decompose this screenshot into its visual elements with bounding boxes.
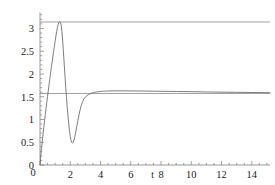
- y-tick-label: 2.5: [21, 46, 34, 57]
- plot-figure: 02468101214 00.511.522.53 t: [0, 0, 275, 185]
- x-tick-label: 10: [186, 169, 197, 180]
- x-axis-title: t: [151, 170, 154, 180]
- plot-canvas: 02468101214 00.511.522.53 t: [0, 0, 275, 185]
- y-tick-label: 0: [29, 160, 34, 171]
- x-tick-label: 8: [158, 169, 163, 180]
- x-tick-label: 4: [98, 169, 104, 180]
- y-tick-label: 0.5: [21, 137, 34, 148]
- y-tick-label: 1: [29, 114, 34, 125]
- reference-lines-group: [40, 22, 270, 94]
- x-tick-labels-group: 02468101214: [30, 167, 257, 180]
- y-tick-label: 1.5: [21, 92, 34, 103]
- x-tick-label: 12: [216, 169, 227, 180]
- x-axis-title-group: t: [151, 170, 154, 180]
- y-tick-label: 2: [29, 69, 34, 80]
- x-tick-label: 6: [128, 169, 133, 180]
- x-tick-label: 14: [247, 169, 258, 180]
- x-tick-marks-group: [40, 161, 267, 165]
- x-tick-label: 2: [68, 169, 73, 180]
- axes-group: [40, 13, 270, 166]
- y-tick-label: 3: [29, 23, 34, 34]
- y-tick-labels-group: 00.511.522.53: [21, 23, 34, 171]
